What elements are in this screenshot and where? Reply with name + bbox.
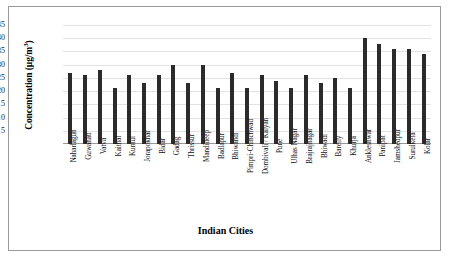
bar [333, 78, 337, 144]
x-label-slot: Badlapur [210, 146, 225, 218]
bar-slot [107, 25, 122, 144]
bar-slot [92, 25, 107, 144]
x-label-slot: Guwahati [78, 146, 93, 218]
x-label-slot: Bidar [151, 146, 166, 218]
bar [127, 75, 131, 144]
y-axis-tick-label: 10 [0, 114, 5, 122]
y-axis-title: Concentration (µg/m3) [22, 20, 34, 150]
x-label-slot: Pune [269, 146, 284, 218]
bar-slot [122, 25, 137, 144]
bar-slot [78, 25, 93, 144]
bar [377, 44, 381, 144]
x-label-slot: Kaithal [107, 146, 122, 218]
x-label-slot: Brajrajnagar [299, 146, 314, 218]
y-axis-tick-label: 30 [0, 61, 5, 69]
y-axis-tick-label: 25 [0, 74, 5, 82]
x-label-slot: Gadag [166, 146, 181, 218]
x-label-slot: Mandideep [195, 146, 210, 218]
y-axis-tick-label: 45 [0, 21, 5, 29]
x-label-slot: Panipat [372, 146, 387, 218]
bar-slot [210, 25, 225, 144]
bar [274, 81, 278, 144]
x-label-slot: Ankleshwar [357, 146, 372, 218]
x-label-slot: Pimpri-Chinchwad [240, 146, 255, 218]
bar-slot [416, 25, 431, 144]
x-axis-tick-labels: NaharlagunGuwahatiVatvaKaithalKurnulJora… [63, 146, 431, 218]
x-label-slot: Vatva [92, 146, 107, 218]
y-axis-tick-label: 40 [0, 34, 5, 42]
x-label-slot: Naharlagun [63, 146, 78, 218]
y-axis-title-text: Concentration (µg/m [24, 47, 34, 130]
bar-slot [137, 25, 152, 144]
x-label-slot: Dombivali / Kalyan [254, 146, 269, 218]
bar-slot [166, 25, 181, 144]
y-axis-tick-label: 20 [0, 87, 5, 95]
x-label-slot: Khurja [343, 146, 358, 218]
bar-slot [313, 25, 328, 144]
x-label-slot: Jorapokhar [137, 146, 152, 218]
bar-slot [343, 25, 358, 144]
bar [157, 75, 161, 144]
x-axis-title: Indian Cities [9, 225, 442, 236]
bar [171, 65, 175, 144]
chart-figure: Concentration (µg/m3) 45403530252015105 … [8, 6, 441, 251]
bar-slot [284, 25, 299, 144]
x-label-slot: Bhiwadi [313, 146, 328, 218]
x-label-slot: Jamshedpur [387, 146, 402, 218]
bar-slot [269, 25, 284, 144]
y-axis-title-tail: ) [24, 40, 34, 43]
bar-slot [299, 25, 314, 144]
bar-slot [357, 25, 372, 144]
x-axis-tick-label: Kolar [424, 138, 432, 154]
bar-slot [328, 25, 343, 144]
bar-slot [195, 25, 210, 144]
bar [98, 70, 102, 144]
bar-slot [181, 25, 196, 144]
bar-slot [387, 25, 402, 144]
x-label-slot: Kurnul [122, 146, 137, 218]
y-axis-tick-label: 35 [0, 47, 5, 55]
y-axis-tick-label: 5 [0, 127, 5, 135]
x-label-slot: Ulhas Nagar [284, 146, 299, 218]
x-label-slot: Surulkela [402, 146, 417, 218]
x-label-slot: Thrissur [181, 146, 196, 218]
x-label-slot: Bareily [328, 146, 343, 218]
bar [407, 49, 411, 144]
x-label-slot: Kolar [416, 146, 431, 218]
bar-slot [151, 25, 166, 144]
bar-slot [225, 25, 240, 144]
y-axis-title-exponent: 3 [22, 43, 30, 46]
bar-slot [402, 25, 417, 144]
bar-slot [63, 25, 78, 144]
x-label-slot: Bhiwandi [225, 146, 240, 218]
bar-slot [372, 25, 387, 144]
y-axis-tick-label: 15 [0, 100, 5, 108]
bar [422, 54, 426, 144]
